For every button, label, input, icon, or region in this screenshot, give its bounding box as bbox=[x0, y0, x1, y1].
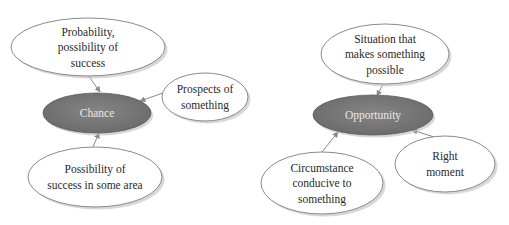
node-label-line: something bbox=[181, 99, 229, 112]
cluster-chance: Probability,possibility ofsuccessProspec… bbox=[11, 18, 251, 210]
node-label-line: Circumstance bbox=[290, 162, 353, 174]
node-label-line: moment bbox=[426, 166, 464, 178]
concept-node-right-moment: Rightmoment bbox=[395, 136, 498, 195]
node-label-line: something bbox=[298, 193, 346, 206]
node-label-line: Prospects of bbox=[177, 83, 234, 96]
node-label-line: Situation that bbox=[354, 33, 416, 45]
connector-arrow bbox=[140, 93, 163, 101]
node-label-line: success in some area bbox=[47, 179, 142, 191]
node-label-line: possibility of bbox=[58, 41, 119, 54]
node-label-line: Possibility of bbox=[64, 163, 125, 176]
node-label-line: makes something bbox=[345, 48, 425, 61]
concept-node-situation-that-makes-something-possible: Situation thatmakes somethingpossible bbox=[321, 24, 452, 87]
node-ellipse bbox=[28, 147, 162, 207]
central-concept-opportunity: Opportunity bbox=[313, 95, 435, 138]
central-concept-chance: Chance bbox=[43, 93, 153, 136]
node-ellipse bbox=[395, 136, 495, 192]
node-label-line: success bbox=[71, 57, 106, 69]
connector-arrow bbox=[322, 132, 338, 152]
node-label-line: Probability, bbox=[61, 26, 114, 39]
cluster-opportunity: Situation thatmakes somethingpossibleRig… bbox=[261, 24, 498, 217]
concept-map: Probability,possibility ofsuccessProspec… bbox=[0, 0, 509, 225]
concept-node-probability-possibility-of-success: Probability,possibility ofsuccess bbox=[11, 18, 168, 79]
node-label-line: Right bbox=[432, 150, 458, 163]
node-label-line: possible bbox=[366, 64, 404, 77]
concept-node-possibility-of-success-in-some-area: Possibility ofsuccess in some area bbox=[28, 147, 165, 210]
nodes: Probability,possibility ofsuccessProspec… bbox=[11, 18, 498, 217]
concept-node-prospects-of-something: Prospects ofsomething bbox=[162, 73, 251, 124]
central-label: Chance bbox=[80, 107, 114, 119]
node-ellipse bbox=[162, 73, 248, 121]
node-label-line: conducive to bbox=[292, 177, 351, 189]
concept-node-circumstance-conducive-to-something: Circumstanceconducive tosomething bbox=[261, 152, 386, 217]
central-label: Opportunity bbox=[345, 109, 401, 122]
